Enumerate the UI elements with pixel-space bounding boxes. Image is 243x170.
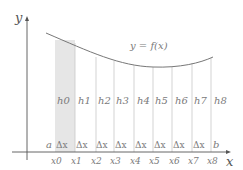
delta-x-label: Δx [96,140,108,150]
interval-end-label: b [213,139,219,150]
partition-point-label: x4 [130,156,141,166]
axes [12,18,228,160]
delta-x-label: Δx [115,140,127,150]
partition-point-label: x3 [110,156,121,166]
partition-point-labels: x0 x1 x2 x3 x4 x5 x6 x7 x8 [51,156,218,166]
height-label: h0 [57,95,70,106]
height-label: h8 [214,95,227,106]
delta-x-label: Δx [135,140,147,150]
delta-x-label: Δx [193,140,205,150]
y-axis-label: y [14,10,23,25]
height-label: h7 [194,95,207,106]
delta-x-label: Δx [154,140,166,150]
height-label: h4 [137,95,150,106]
height-labels: h0 h1 h2 h3 h4 h5 h6 h7 h8 [57,95,227,106]
diagram-svg: y x y = f(x) h0 h1 h2 h3 h4 h5 h6 h7 h8 … [0,0,243,170]
curve-label: y = f(x) [129,40,168,51]
partition-point-label: x6 [169,156,180,166]
delta-x-label: Δx [76,140,88,150]
height-label: h6 [175,95,188,106]
partition-point-label: x8 [207,156,218,166]
partition-point-label: x0 [51,156,62,166]
delta-x-labels: Δx Δx Δx Δx Δx Δx Δx Δx [56,140,205,150]
height-label: h3 [116,95,129,106]
y-axis-arrow-icon [25,16,29,21]
interval-start-label: a [46,139,52,150]
x-axis-label: x [226,154,234,169]
riemann-diagram: y x y = f(x) h0 h1 h2 h3 h4 h5 h6 h7 h8 … [0,0,243,170]
delta-x-label: Δx [56,140,68,150]
partition-point-label: x1 [71,156,82,166]
height-label: h2 [98,95,111,106]
height-label: h5 [155,95,168,106]
delta-x-label: Δx [173,140,185,150]
height-label: h1 [78,95,91,106]
partition-point-label: x7 [188,156,199,166]
partition-point-label: x5 [149,156,160,166]
partition-point-label: x2 [91,156,102,166]
